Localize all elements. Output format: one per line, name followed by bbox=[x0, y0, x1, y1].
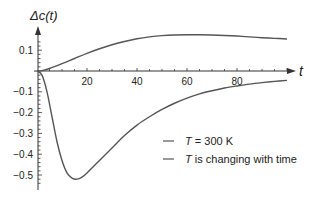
x-tick-label: 60 bbox=[181, 76, 193, 87]
y-axis-label: Δc(t) bbox=[29, 8, 58, 23]
y-axis-arrow-icon bbox=[35, 26, 41, 35]
y-tick-label: 0.1 bbox=[19, 45, 33, 56]
x-axis-arrow-icon bbox=[287, 68, 296, 74]
y-tick-label: −0.4 bbox=[13, 149, 33, 160]
y-tick-label: −0.1 bbox=[13, 86, 33, 97]
legend-entry-label: T = 300 K bbox=[185, 135, 234, 147]
x-axis-label: t bbox=[299, 63, 304, 79]
legend-entry-label: T is changing with time bbox=[185, 153, 297, 165]
x-tick-label: 80 bbox=[231, 76, 243, 87]
y-tick-label: −0.2 bbox=[13, 107, 33, 118]
legend-text-rest: = 300 K bbox=[192, 135, 234, 147]
chart: 204060800.1−0.1−0.2−0.3−0.4−0.5 Δc(t) t … bbox=[0, 0, 318, 200]
legend-text-rest: is changing with time bbox=[192, 153, 297, 165]
y-tick-label: −0.3 bbox=[13, 128, 33, 139]
series-line-1 bbox=[37, 35, 287, 71]
y-tick-label: −0.5 bbox=[13, 170, 33, 181]
legend: T = 300 KT is changing with time bbox=[163, 135, 297, 165]
x-tick-label: 40 bbox=[131, 76, 143, 87]
x-tick-label: 20 bbox=[81, 76, 93, 87]
